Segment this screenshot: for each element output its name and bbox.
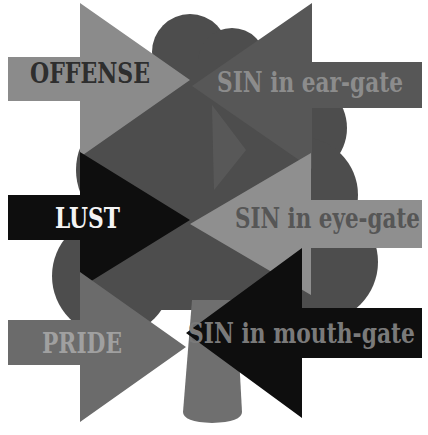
label-lust: LUST [55, 203, 120, 234]
label-mouth-gate: SIN in mouth-gate [188, 318, 415, 349]
label-ear-gate: SIN in ear-gate [217, 67, 403, 98]
diagram-canvas: OFFENSE SIN in ear-gate SIN in eye-gate … [0, 0, 428, 435]
label-offense: OFFENSE [30, 58, 150, 89]
label-eye-gate: SIN in eye-gate [235, 203, 420, 234]
sin-gates-diagram: OFFENSE SIN in ear-gate SIN in eye-gate … [0, 0, 428, 435]
label-pride: PRIDE [42, 328, 122, 359]
